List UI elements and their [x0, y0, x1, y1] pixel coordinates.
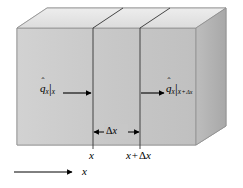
- thickness-label: Δx: [106, 126, 117, 136]
- tick-label-x-plus-dx: x + Δx: [126, 150, 151, 161]
- block-right-face-shading: [196, 8, 226, 145]
- x-axis-label: x: [82, 166, 87, 177]
- block-top-face-shading: [17, 8, 226, 28]
- heat-conduction-slab-figure: qx|x qx|x + Δx Δx x x + Δx x: [0, 0, 243, 188]
- slab-diagram-svg: [0, 0, 243, 188]
- tick-label-x: x: [89, 150, 94, 161]
- flux-in-label: qx|x: [40, 82, 55, 97]
- flux-out-label: qx|x + Δx: [166, 82, 192, 97]
